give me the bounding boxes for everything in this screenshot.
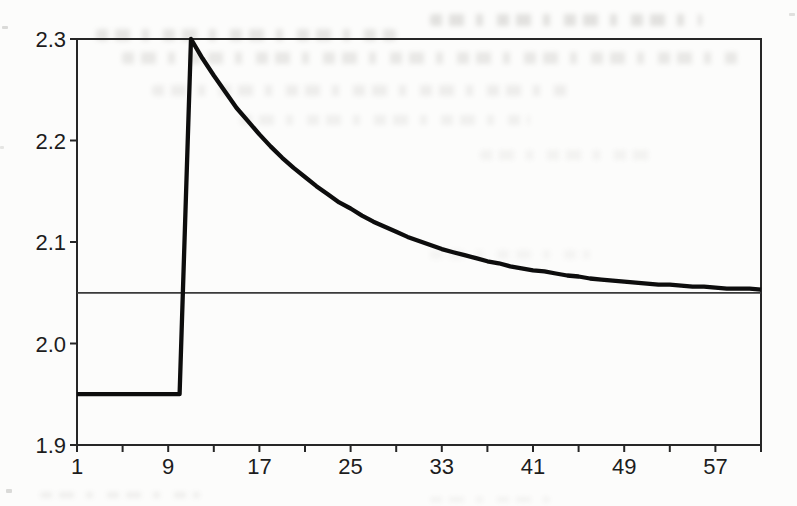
y-axis-tick-label: 2.2 xyxy=(35,129,66,154)
x-axis-tick-label: 25 xyxy=(338,454,362,479)
y-axis-tick-label: 2.0 xyxy=(35,332,66,357)
x-axis-tick-label: 57 xyxy=(703,454,727,479)
line-chart: 191725334149571.92.02.12.22.3 xyxy=(0,0,797,506)
x-axis-tick-label: 1 xyxy=(71,454,83,479)
scanned-figure-page: 191725334149571.92.02.12.22.3 xyxy=(0,0,797,506)
y-axis-tick-label: 2.1 xyxy=(35,230,66,255)
x-axis-tick-label: 49 xyxy=(612,454,636,479)
x-axis-tick-label: 41 xyxy=(521,454,545,479)
x-axis-tick-label: 33 xyxy=(430,454,454,479)
impulse-response-line xyxy=(77,39,761,394)
x-axis-tick-label: 17 xyxy=(247,454,271,479)
y-axis-tick-label: 2.3 xyxy=(35,27,66,52)
y-axis-tick-label: 1.9 xyxy=(35,433,66,458)
x-axis-tick-label: 9 xyxy=(162,454,174,479)
